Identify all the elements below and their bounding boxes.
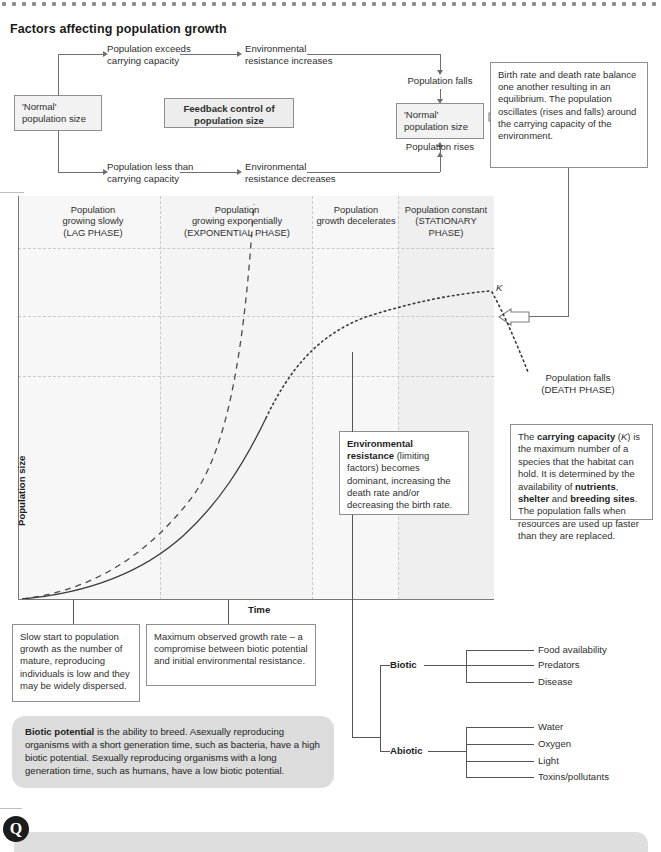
cc-bold-nutrients: nutrients bbox=[575, 481, 616, 492]
questions-badge-icon: Q bbox=[3, 816, 29, 842]
questions-panel bbox=[14, 832, 648, 852]
connector-maxgrowth-note bbox=[228, 600, 229, 625]
page-title: Factors affecting population growth bbox=[10, 22, 227, 36]
connector-k-h bbox=[528, 316, 569, 317]
abiotic-leaf-line-4 bbox=[466, 777, 534, 778]
tree-leaf-water: Water bbox=[538, 721, 563, 732]
flow-box-normal-left: 'Normal' population size bbox=[14, 95, 102, 131]
tree-leaf-light: Light bbox=[538, 755, 559, 766]
carrying-capacity-note-box: The carrying capacity (K) is the maximum… bbox=[510, 424, 653, 520]
connector-bottom-mid bbox=[180, 172, 238, 173]
biotic-leaf-line-3 bbox=[466, 682, 534, 683]
connector-right-bot-h bbox=[307, 172, 440, 173]
connector-bottom-h bbox=[58, 172, 104, 173]
abiotic-leaf-line-1 bbox=[466, 727, 534, 728]
connector-er-down bbox=[352, 515, 353, 737]
tree-branch-biotic bbox=[380, 665, 390, 666]
y-axis bbox=[18, 196, 19, 600]
textbook-page: Factors affecting population growth 'Nor… bbox=[0, 0, 661, 852]
equilibrium-note-box: Birth rate and death rate balance one an… bbox=[490, 62, 648, 168]
cc-t4: , bbox=[616, 481, 619, 492]
tree-leaf-predators: Predators bbox=[538, 659, 580, 670]
cc-bold-carrying: carrying capacity bbox=[537, 431, 615, 442]
abiotic-stem bbox=[428, 751, 466, 752]
connector-right-top-h bbox=[307, 54, 440, 55]
death-phase-label: Population falls (DEATH PHASE) bbox=[520, 372, 636, 395]
flow-text-population-rises: Population rises bbox=[382, 141, 498, 153]
tree-leaf-oxygen: Oxygen bbox=[538, 738, 571, 749]
connector-right-bot-v bbox=[440, 156, 441, 172]
page-rule-left bbox=[0, 192, 24, 193]
abiotic-leaf-line-3 bbox=[466, 761, 534, 762]
biotic-potential-panel: Biotic potential is the ability to breed… bbox=[12, 716, 334, 788]
flow-box-feedback-control: Feedback control of population size bbox=[164, 98, 294, 128]
cc-t5: and bbox=[549, 493, 570, 504]
growth-curves bbox=[18, 196, 518, 600]
tree-leaf-disease: Disease bbox=[538, 676, 573, 687]
cc-t1: The bbox=[518, 431, 537, 442]
page-perforation bbox=[0, 2, 661, 8]
connector-top-h bbox=[58, 54, 104, 55]
biotic-stem bbox=[424, 665, 466, 666]
abiotic-bracket bbox=[466, 727, 467, 777]
cc-bold-shelter: shelter bbox=[518, 493, 549, 504]
tree-label-biotic: Biotic bbox=[390, 659, 417, 670]
connector-left-up bbox=[58, 54, 59, 96]
lag-note-box: Slow start to population growth as the n… bbox=[12, 624, 140, 702]
tree-leaf-food: Food availability bbox=[538, 644, 607, 655]
page-rule-bottom bbox=[0, 808, 22, 809]
connector-equilibrium-to-k bbox=[568, 168, 569, 316]
biotic-leaf-line-2 bbox=[466, 665, 534, 666]
max-growth-note-box: Maximum observed growth rate – a comprom… bbox=[146, 624, 316, 686]
bp-bold: Biotic potential bbox=[25, 726, 94, 737]
tree-label-abiotic: Abiotic bbox=[390, 745, 423, 756]
connector-left-down bbox=[58, 130, 59, 172]
connector-er-up bbox=[352, 352, 353, 432]
arrowhead-top-mid bbox=[237, 51, 242, 57]
biotic-bracket bbox=[466, 650, 467, 682]
tree-leaf-toxins: Toxins/pollutants bbox=[538, 771, 609, 782]
biotic-leaf-line-1 bbox=[466, 650, 534, 651]
abiotic-leaf-line-2 bbox=[466, 744, 534, 745]
environmental-resistance-note-box: Environmental resistance (limiting facto… bbox=[339, 431, 469, 515]
arrowhead-bottom-mid bbox=[237, 169, 242, 175]
flow-text-population-falls: Population falls bbox=[382, 75, 498, 87]
k-axis-label: K bbox=[496, 282, 502, 293]
tree-branch-abiotic bbox=[380, 751, 390, 752]
flow-box-normal-right: 'Normal' population size bbox=[396, 103, 484, 139]
population-growth-graph: Population growing slowly (LAG PHASE) Po… bbox=[18, 196, 494, 600]
cc-bold-breeding: breeding sites bbox=[570, 493, 634, 504]
connector-top-mid bbox=[180, 54, 238, 55]
x-axis bbox=[18, 599, 494, 600]
connector-lag-note bbox=[73, 600, 74, 625]
connector-er-to-tree bbox=[352, 737, 380, 738]
y-axis-label: Population size bbox=[16, 456, 27, 526]
tree-trunk bbox=[380, 665, 381, 751]
x-axis-label: Time bbox=[248, 604, 270, 615]
